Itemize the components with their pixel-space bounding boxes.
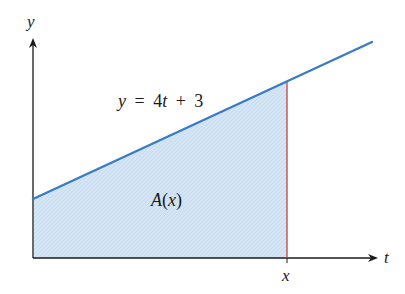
equation-constant: 3 [194, 91, 203, 111]
t-axis-label: t [384, 248, 390, 267]
equation-equals: = [135, 91, 145, 111]
area-label-arg: x [167, 190, 176, 210]
equation-y: y [116, 91, 126, 111]
x-tick-label: x [281, 266, 290, 285]
diagram-canvas: y t x y = 4t + 3 A(x) [0, 0, 405, 294]
area-label: A(x) [150, 190, 182, 211]
equation-coefficient: 4 [153, 91, 162, 111]
equation-plus: + [176, 91, 186, 111]
area-label-close-paren: ) [176, 190, 182, 211]
y-axis-label: y [25, 12, 35, 31]
equation-label: y = 4t + 3 [116, 91, 203, 111]
equation-variable: t [162, 91, 168, 111]
